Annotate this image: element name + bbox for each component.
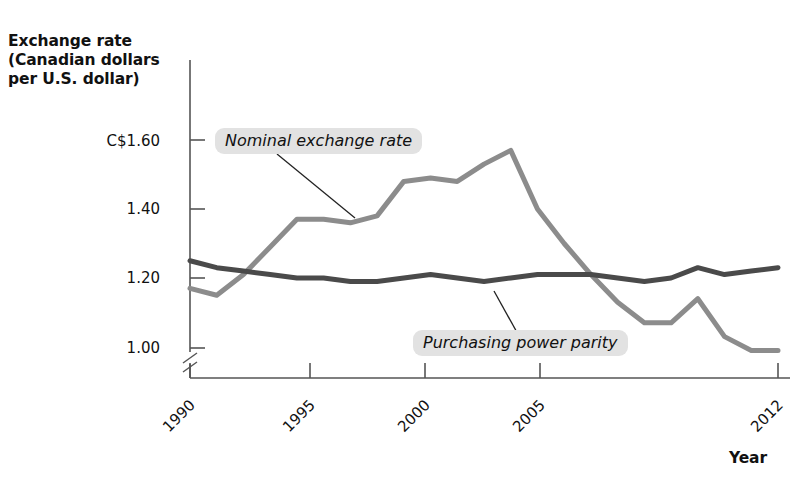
exchange-rate-chart: Exchange rate (Canadian dollars per U.S.… xyxy=(0,0,810,481)
y-axis-ticks xyxy=(190,140,205,348)
series-line-nominal-exchange-rate xyxy=(190,150,778,350)
plot-area xyxy=(0,0,810,481)
leader-line-nominal xyxy=(277,154,355,218)
x-axis-ticks xyxy=(190,363,778,378)
series-annotation-nominal-exchange-rate: Nominal exchange rate xyxy=(215,128,422,154)
series-line-purchasing-power-parity xyxy=(190,261,778,282)
series-annotation-purchasing-power-parity: Purchasing power parity xyxy=(413,330,628,356)
